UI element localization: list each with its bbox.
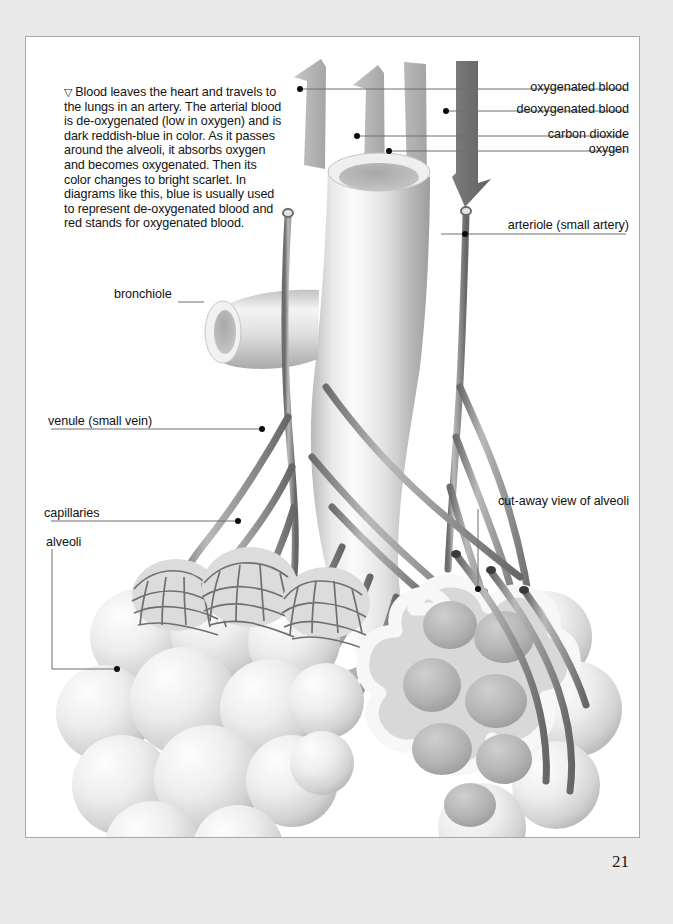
label-bronchiole: bronchiole xyxy=(114,287,172,301)
label-carbon-dioxide: carbon dioxide xyxy=(410,127,629,141)
label-oxygenated-blood: oxygenated blood xyxy=(410,80,629,94)
label-alveoli: alveoli xyxy=(46,535,81,549)
alveoli-cluster-cutaway xyxy=(363,581,622,838)
label-cutaway-view: cut-away view of alveoli xyxy=(410,494,629,508)
illustration-frame: ▽ Blood leaves the heart and travels to … xyxy=(25,36,640,838)
caption-text: Blood leaves the heart and travels to th… xyxy=(64,85,281,230)
caption-triangle-marker: ▽ xyxy=(64,86,72,98)
page-canvas: ▽ Blood leaves the heart and travels to … xyxy=(0,0,673,924)
label-venule: venule (small vein) xyxy=(48,414,152,428)
page-number: 21 xyxy=(612,852,652,872)
label-capillaries: capillaries xyxy=(44,506,99,520)
label-oxygen: oxygen xyxy=(410,142,629,156)
label-arteriole: arteriole (small artery) xyxy=(410,218,629,232)
caption-block: ▽ Blood leaves the heart and travels to … xyxy=(64,85,282,231)
label-deoxygenated-blood: deoxygenated blood xyxy=(410,102,629,116)
